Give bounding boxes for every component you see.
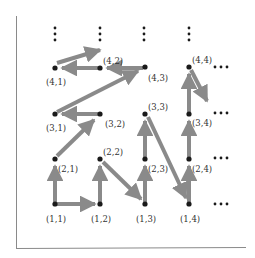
- horizontal-ellipsis-row4: [214, 66, 229, 69]
- horizontal-ellipsis-row1: [214, 203, 229, 206]
- label-1-3: (1,3): [136, 214, 156, 224]
- nodes: [52, 64, 191, 206]
- vertical-ellipses: [54, 27, 191, 42]
- label-3-1: (3,1): [46, 123, 66, 133]
- node-2-4: [186, 156, 191, 161]
- label-2-2: (2,2): [103, 147, 123, 157]
- node-2-1: [52, 156, 57, 161]
- label-3-2: (3,2): [105, 119, 125, 129]
- node-3-4: [186, 111, 191, 116]
- label-1-4: (1,4): [180, 214, 200, 224]
- edge-4-1-up: [57, 50, 100, 63]
- vertical-ellipsis-col3: [143, 27, 146, 42]
- label-3-4: (3,4): [192, 118, 212, 128]
- vertical-ellipsis-col4: [188, 27, 191, 42]
- node-3-3: [142, 111, 147, 116]
- vertical-ellipsis-col2: [99, 27, 102, 42]
- node-1-1: [52, 201, 57, 206]
- edge-4-4-down: [191, 70, 207, 101]
- node-2-2: [97, 156, 102, 161]
- label-1-1: (1,1): [46, 214, 66, 224]
- node-3-2: [97, 111, 102, 116]
- node-4-3: [142, 64, 147, 69]
- label-3-3: (3,3): [148, 102, 168, 112]
- node-4-1: [52, 65, 57, 70]
- edge-2-2-to-1-3: [103, 162, 141, 199]
- label-2-4: (2,4): [192, 164, 212, 174]
- label-4-1: (4,1): [46, 77, 66, 87]
- node-4-4: [186, 64, 191, 69]
- edge-3-3-to-1-4: [148, 117, 186, 198]
- horizontal-ellipsis-row2: [214, 157, 229, 160]
- label-4-4: (4,4): [192, 55, 212, 65]
- node-2-3: [142, 156, 147, 161]
- label-2-1: (2,1): [58, 164, 78, 174]
- node-4-2: [97, 65, 102, 70]
- label-4-3: (4,3): [148, 73, 168, 83]
- zigzag-enumeration-diagram: (1,1) (1,2) (1,3) (1,4) (2,1) (2,2) (2,3…: [0, 0, 255, 258]
- node-1-4: [186, 201, 191, 206]
- edges: [55, 50, 207, 204]
- vertical-ellipsis-col1: [54, 27, 57, 42]
- edge-3-1-to-4-3: [57, 71, 138, 112]
- node-1-2: [97, 201, 102, 206]
- node-3-1: [52, 111, 57, 116]
- label-1-2: (1,2): [91, 214, 111, 224]
- horizontal-ellipsis-row3: [214, 112, 229, 115]
- node-1-3: [142, 201, 147, 206]
- label-4-2: (4,2): [103, 56, 123, 66]
- label-2-3: (2,3): [148, 164, 168, 174]
- horizontal-ellipses: [214, 66, 229, 206]
